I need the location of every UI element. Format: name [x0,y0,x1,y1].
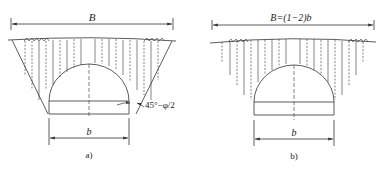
diagram-canvas: B 45°−φ/2 b a) [0,0,384,169]
panel-a [8,18,176,145]
label-B-a: B [89,11,96,23]
label-b-a: b [87,126,92,137]
slip-line-left [12,40,48,114]
label-b-b: b [292,127,297,138]
tunnel-profile-b [254,65,334,120]
load-lines-b [222,39,363,100]
caption-a: a) [86,150,93,160]
caption-b: b) [290,151,298,161]
tunnel-profile-a [49,64,129,118]
load-lines-a [25,39,158,100]
ground-hatching-b [228,39,368,42]
angle-label: 45°−φ/2 [145,100,175,110]
label-B-b: B=(1−2)b [270,12,311,24]
